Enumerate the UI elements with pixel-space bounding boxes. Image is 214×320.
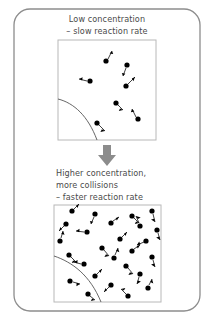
bottom-caption-line2: more collisions	[56, 180, 118, 190]
bottom-caption-line1: Higher concentration,	[56, 168, 146, 178]
high-concentration-panel	[54, 204, 161, 302]
top-caption-line2: – slow reaction rate	[66, 26, 147, 36]
low-concentration-panel	[58, 40, 156, 140]
bottom-caption-line3: – faster reaction rate	[56, 192, 143, 202]
low-panel-box	[58, 40, 156, 140]
top-caption-line1: Low concentration	[69, 14, 145, 24]
reaction-rate-figure: Low concentration – slow reaction rate	[0, 0, 214, 320]
figure-canvas: Low concentration – slow reaction rate	[0, 0, 214, 320]
